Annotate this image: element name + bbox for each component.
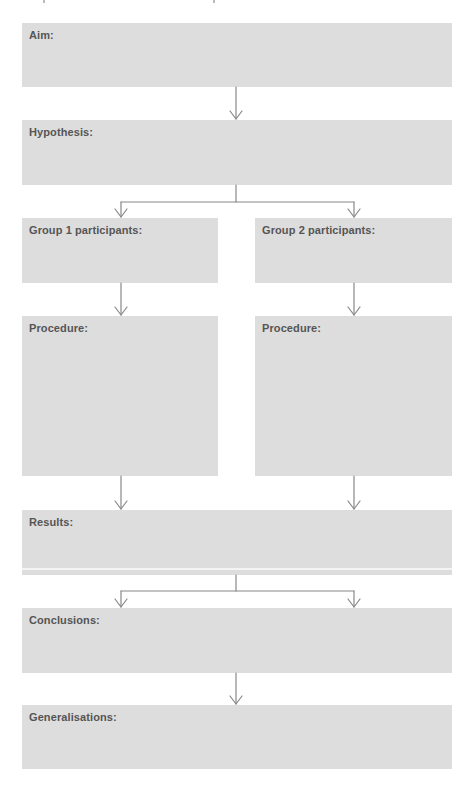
arrow-down-icon [348, 591, 360, 607]
arrow-down-icon [348, 283, 360, 315]
arrow-down-icon [230, 673, 242, 704]
split-connector [121, 185, 354, 202]
split-connector [121, 575, 354, 591]
arrow-down-icon [115, 283, 127, 315]
arrow-down-icon [348, 202, 360, 217]
arrow-down-icon [348, 476, 360, 509]
connector-layer [0, 0, 472, 792]
arrow-down-icon [115, 591, 127, 607]
arrow-down-icon [230, 87, 242, 119]
arrow-down-icon [115, 476, 127, 509]
arrow-down-icon [115, 202, 127, 217]
